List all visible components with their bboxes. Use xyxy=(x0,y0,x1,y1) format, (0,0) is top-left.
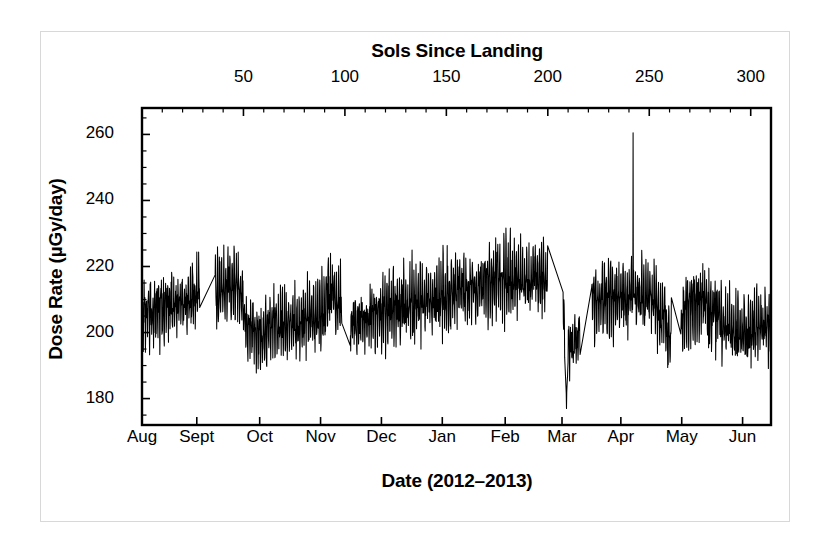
data-series xyxy=(142,133,771,409)
top-tick-label-50: 50 xyxy=(213,68,273,86)
axis-ticks xyxy=(142,108,751,425)
y-tick-label-260: 260 xyxy=(60,124,114,142)
top-tick-label-250: 250 xyxy=(619,68,679,86)
chart-figure: Sols Since Landing Date (2012–2013) Dose… xyxy=(0,0,829,546)
top-tick-label-100: 100 xyxy=(315,68,375,86)
figure-page: Sols Since Landing Date (2012–2013) Dose… xyxy=(0,0,829,546)
y-tick-label-240: 240 xyxy=(60,190,114,208)
y-tick-label-200: 200 xyxy=(60,323,114,341)
top-axis-title: Sols Since Landing xyxy=(142,40,772,62)
month-tick-label-may: May xyxy=(649,428,715,446)
month-tick-label-apr: Apr xyxy=(588,428,654,446)
month-tick-label-sept: Sept xyxy=(164,428,230,446)
month-tick-label-jun: Jun xyxy=(710,428,776,446)
top-tick-label-200: 200 xyxy=(518,68,578,86)
dose-rate-trace xyxy=(142,133,771,409)
top-tick-label-150: 150 xyxy=(416,68,476,86)
month-tick-label-mar: Mar xyxy=(529,428,595,446)
y-tick-label-220: 220 xyxy=(60,257,114,275)
month-tick-label-oct: Oct xyxy=(227,428,293,446)
y-tick-label-180: 180 xyxy=(60,389,114,407)
top-tick-label-300: 300 xyxy=(721,68,781,86)
month-tick-label-jan: Jan xyxy=(409,428,475,446)
month-tick-label-dec: Dec xyxy=(348,428,414,446)
bottom-axis-title: Date (2012–2013) xyxy=(142,470,772,492)
plot-area xyxy=(0,0,829,546)
month-tick-label-nov: Nov xyxy=(288,428,354,446)
